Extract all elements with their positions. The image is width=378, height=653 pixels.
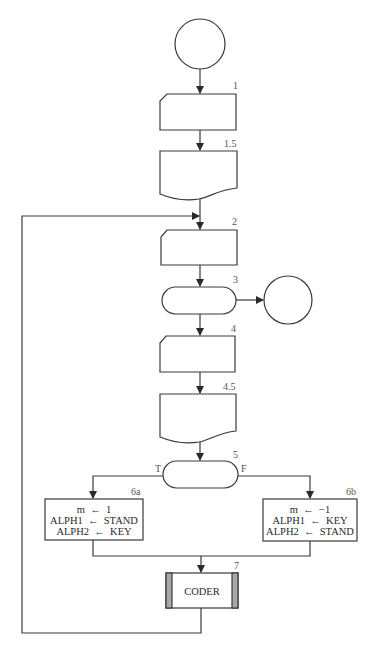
node-1-card: 1 xyxy=(160,80,238,130)
node-5-decision: 5 T F xyxy=(155,449,247,488)
edge-5-6a xyxy=(93,476,163,498)
node-6a-line-2: ALPH1 ← STAND xyxy=(50,515,138,526)
node-6a-number: 6a xyxy=(131,486,141,497)
node-6a-line-1: m ← 1 xyxy=(77,504,111,515)
node-4.5-document: 4.5 xyxy=(160,381,236,443)
node-4.5-number: 4.5 xyxy=(223,381,236,392)
node-7-predefined-process: 7 CODER xyxy=(166,560,239,608)
node-1.5-number: 1.5 xyxy=(224,138,237,149)
node-4-card: 4 xyxy=(160,323,236,372)
node-5-true-label: T xyxy=(155,463,161,474)
edge-5-6b xyxy=(238,476,310,498)
flowchart-canvas: 1 1.5 2 3 4 4.5 5 T F xyxy=(0,0,378,653)
node-3-number: 3 xyxy=(233,274,238,285)
node-1.5-document: 1.5 xyxy=(160,138,237,200)
node-2-number: 2 xyxy=(232,216,237,227)
node-6a-process: 6a m ← 1 ALPH1 ← STAND ALPH2 ← KEY xyxy=(45,486,143,540)
node-7-label: CODER xyxy=(184,586,220,597)
node-4-number: 4 xyxy=(231,323,236,334)
node-6b-line-1: m ← −1 xyxy=(290,504,330,515)
start-connector xyxy=(175,19,225,69)
node-2-card: 2 xyxy=(161,216,237,265)
edge-6-merge xyxy=(93,540,310,556)
node-7-number: 7 xyxy=(234,560,239,571)
node-6b-line-3: ALPH2 ← STAND xyxy=(266,526,354,537)
node-5-false-label: F xyxy=(241,463,247,474)
node-6b-number: 6b xyxy=(346,486,356,497)
node-6b-line-2: ALPH1 ← KEY xyxy=(272,515,348,526)
node-6a-line-3: ALPH2 ← KEY xyxy=(56,526,132,537)
exit-connector xyxy=(264,276,312,324)
node-5-number: 5 xyxy=(233,449,238,460)
node-1-number: 1 xyxy=(233,80,238,91)
